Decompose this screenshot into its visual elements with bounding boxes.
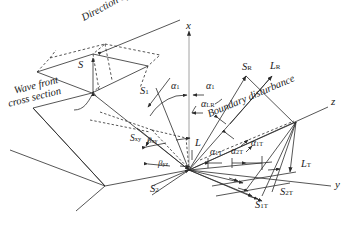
vector-sub-S2: 2 [155, 186, 158, 193]
angle-label-alphaLR: αLR [201, 99, 215, 109]
angle-label-beta-yz: βyz [158, 159, 168, 168]
vector-base-S: S [78, 59, 83, 70]
angle-sub-a1l: 1 [176, 83, 179, 90]
vector-sub-LT: T [307, 161, 311, 168]
diagram-vector-layer [0, 0, 354, 230]
angle-label-beta-xy: βxy [147, 136, 157, 145]
angle-label-alpha1-right: α1 [206, 81, 215, 91]
axis-label-z: z [331, 96, 335, 107]
angle-sub-a1r: 1 [211, 83, 214, 90]
angle-sub-a2T: 2T [236, 148, 243, 155]
vector-label-L: L [195, 138, 201, 149]
axis-label-x: x [186, 20, 191, 31]
vector-sub-S2T: 2T [285, 189, 293, 196]
vector-sub-LR: R [276, 63, 281, 70]
vector-sub-Sxy: xy [135, 135, 141, 142]
vector-base-L: L [195, 137, 201, 148]
vector-label-S1T: S1T [255, 200, 268, 211]
vector-sub-S1T: 1T [260, 202, 268, 209]
vector-label-Sxy: Sxy [130, 134, 141, 144]
axis-label-y: y [335, 179, 340, 190]
vector-label-LR: LR [270, 61, 280, 72]
lower-wave-front-polygon [10, 93, 189, 211]
vector-sub-S1: 1 [145, 88, 148, 95]
vector-label-S1: S1 [140, 86, 149, 97]
angle-label-alpha1-left: α1 [171, 81, 180, 91]
angle-label-alpha2T: α2T [231, 147, 243, 157]
angle-label-alpha1T-right: α1T [251, 139, 263, 149]
vector-label-S2T: S2T [280, 187, 293, 198]
angle-sub-aLR: LR [206, 101, 214, 108]
angle-sub-a1Tl: 1T [215, 149, 222, 156]
strain-direction-arrows [93, 20, 180, 96]
vector-label-S2: S2 [150, 184, 159, 195]
vector-sub-SR: R [247, 64, 252, 71]
vector-label-S: S [78, 60, 83, 71]
vector-label-LT: LT [301, 159, 311, 170]
figure-canvas: x y z Direction of strain Wave front cro… [0, 0, 354, 230]
angle-label-alpha1T-left: α1T [210, 148, 222, 158]
angle-sub-bxy: xy [151, 138, 157, 144]
angle-sub-byz: yz [162, 161, 168, 167]
vector-label-SR: SR [242, 62, 252, 73]
angle-sub-a1Tr: 1T [256, 140, 263, 147]
